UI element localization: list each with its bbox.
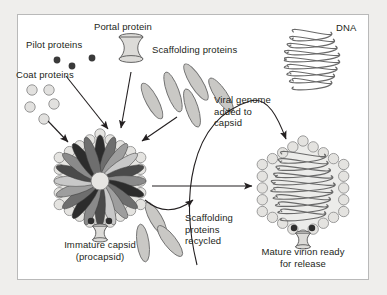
figure-root: Pilot proteins Portal protein Coat prote… xyxy=(0,0,387,295)
arrow-coat-to-capsid xyxy=(48,121,68,142)
label-immature-capsid: Immature capsid (procapsid) xyxy=(40,239,160,262)
mature-virion-coat-bead xyxy=(339,195,349,205)
mature-virion-coat-bead xyxy=(328,212,338,222)
mature-virion-coat-bead xyxy=(277,148,287,158)
capsid-pilot-protein xyxy=(88,218,94,224)
label-dna: DNA xyxy=(336,22,356,34)
mature-virion-coat-bead xyxy=(257,183,267,193)
immature-capsid-core xyxy=(91,172,109,190)
mature-virion-coat-bead xyxy=(339,159,349,169)
label-scaffolding-proteins: Scaffolding proteins xyxy=(152,44,237,56)
mature-virion-coat-bead xyxy=(308,142,318,152)
mature-virion-coat-bead xyxy=(277,218,287,228)
mature-virion-coat-bead xyxy=(298,136,308,146)
coat-protein-subunit xyxy=(39,114,49,124)
portal-protein-icon-base xyxy=(119,56,143,63)
pilot-protein-dot xyxy=(54,57,61,64)
mature-virion-coat-bead xyxy=(339,183,349,193)
label-mature-virion: Mature virion ready for release xyxy=(243,246,363,269)
mature-virion-coat-bead xyxy=(257,195,267,205)
capsid-pilot-protein xyxy=(309,225,315,231)
label-portal-protein: Portal protein xyxy=(94,21,152,33)
label-coat-proteins: Coat proteins xyxy=(16,69,74,81)
mature-virion-coat-bead xyxy=(257,159,267,169)
label-viral-genome-added: Viral genome added to capsid xyxy=(214,94,271,129)
arrow-pilot-to-capsid xyxy=(66,76,108,129)
capsid-pilot-protein xyxy=(106,218,112,224)
mature-virion-coat-bead xyxy=(257,171,267,181)
label-pilot-proteins: Pilot proteins xyxy=(26,39,82,51)
mature-virion-coat-bead xyxy=(267,153,277,163)
arrow-portal-to-capsid xyxy=(121,72,131,128)
coat-protein-subunit xyxy=(27,85,37,95)
coat-protein-subunit xyxy=(49,99,59,109)
mature-virion-coat-bead xyxy=(267,212,277,222)
mature-virion-coat-bead xyxy=(318,218,328,228)
arrow-scaffolding-to-capsid xyxy=(142,117,177,141)
mature-virion-coat-bead xyxy=(257,206,267,216)
coat-protein-subunit xyxy=(44,85,54,95)
mature-virion-coat-bead xyxy=(328,153,338,163)
label-scaffolding-recycled: Scaffolding proteins recycled xyxy=(185,212,233,247)
capsid-pilot-protein xyxy=(291,225,297,231)
scaffolding-protein xyxy=(137,81,166,122)
mature-virion-coat-bead xyxy=(339,206,349,216)
scaffolding-protein xyxy=(160,70,186,114)
mature-virion-coat-bead xyxy=(288,142,298,152)
pilot-protein-dot xyxy=(89,55,96,62)
mature-virion-coat-bead xyxy=(339,171,349,181)
coat-protein-subunit xyxy=(25,102,35,112)
dna-coil xyxy=(284,29,339,89)
